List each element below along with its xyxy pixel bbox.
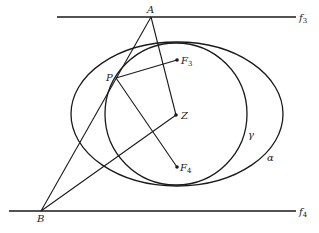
label-alpha: α bbox=[267, 152, 274, 163]
point-F4-dot bbox=[175, 165, 179, 169]
label-f3: f3 bbox=[298, 12, 307, 25]
label-B: B bbox=[36, 213, 44, 224]
label-f4: f4 bbox=[298, 206, 308, 219]
label-F3: F3 bbox=[180, 55, 192, 68]
label-gamma: γ bbox=[248, 129, 254, 140]
geometry-diagram: A B P F3 Z F4 γ α f3 f4 bbox=[0, 0, 319, 233]
segment-A-B bbox=[41, 17, 151, 211]
label-P: P bbox=[105, 72, 113, 83]
point-F3-dot bbox=[175, 58, 179, 62]
label-A: A bbox=[146, 4, 154, 15]
label-F4: F4 bbox=[179, 162, 192, 175]
segment-P-F4 bbox=[116, 78, 177, 167]
point-Z-dot bbox=[174, 113, 178, 117]
label-Z: Z bbox=[180, 110, 189, 121]
segment-B-Z bbox=[41, 115, 176, 211]
